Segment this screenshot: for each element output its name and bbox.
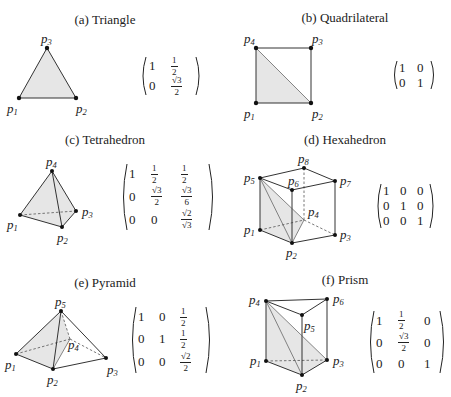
right-paren bbox=[205, 306, 213, 374]
label-p1: p1 bbox=[243, 106, 255, 122]
vertex-p1 bbox=[254, 101, 258, 105]
matrix-cell: 1 bbox=[129, 163, 136, 185]
title-prism: (f) Prism bbox=[322, 272, 369, 287]
label-p1: p1 bbox=[243, 222, 255, 238]
title-hexahedron: (d) Hexahedron bbox=[304, 132, 386, 147]
matrix-cell: 0 bbox=[417, 183, 424, 198]
matrix-cell: 1 bbox=[400, 198, 407, 213]
matrix-tetrahedron: 1 12 12 0 √32 √36 0 0 √2√3 bbox=[120, 163, 216, 231]
panel-prism: (f) Prism p1 p2 p3 p4 p5 p6 bbox=[248, 272, 368, 394]
vertex-p1 bbox=[14, 352, 18, 356]
matrix-cell: 12 bbox=[181, 163, 188, 185]
vertex-p2 bbox=[309, 101, 313, 105]
label-p4: p4 bbox=[243, 31, 256, 47]
panel-quadrilateral: (b) Quadrilateral p1 p2 p3 p4 bbox=[243, 10, 389, 122]
vertex-p6 bbox=[290, 188, 294, 192]
matrix-cell: 0 bbox=[399, 75, 406, 90]
matrix-cell: 1 bbox=[383, 183, 390, 198]
matrix-cell: 12 bbox=[398, 310, 405, 331]
matrix-cell: 1 bbox=[159, 328, 166, 350]
matrix-quadrilateral: 1 0 0 1 bbox=[392, 60, 436, 90]
vertex-p5 bbox=[258, 176, 262, 180]
matrix-cell: 12 bbox=[180, 306, 187, 328]
matrix-cell: √32 bbox=[151, 185, 162, 208]
vertex-p2 bbox=[74, 96, 78, 100]
label-p3: p3 bbox=[40, 31, 52, 47]
label-p2: p2 bbox=[295, 378, 308, 394]
matrix-cell: 1 bbox=[376, 310, 383, 331]
panel-triangle: (a) Triangle p1 p2 p3 bbox=[6, 12, 136, 117]
label-p2: p2 bbox=[46, 372, 59, 388]
matrix-cell: √2√3 bbox=[181, 208, 192, 231]
matrix-cell: 0 bbox=[383, 213, 390, 228]
vertex-p1 bbox=[264, 359, 268, 363]
matrix-cell: 0 bbox=[159, 306, 166, 328]
label-p4: p4 bbox=[45, 154, 58, 170]
vertex-p3 bbox=[74, 209, 78, 213]
matrix-cell: √22 bbox=[180, 350, 191, 374]
label-p3: p3 bbox=[332, 353, 344, 369]
vertex-p3 bbox=[104, 356, 108, 360]
matrix-cell: 12 bbox=[180, 328, 187, 350]
label-p2: p2 bbox=[56, 230, 69, 246]
title-tetrahedron: (c) Tetrahedron bbox=[65, 132, 146, 147]
matrix-cell: 0 bbox=[159, 350, 166, 374]
matrix-cell: 0 bbox=[138, 350, 145, 374]
matrix-cell: √32 bbox=[398, 331, 409, 354]
matrix-prism: 1 12 0 0 √32 0 0 0 1 bbox=[367, 310, 447, 374]
label-p3: p3 bbox=[106, 362, 118, 378]
label-p2: p2 bbox=[311, 106, 324, 122]
vertex-p3 bbox=[309, 46, 313, 50]
matrix-cell: √32 bbox=[171, 76, 182, 96]
left-paren bbox=[129, 306, 137, 374]
left-paren bbox=[367, 310, 375, 374]
vertex-p2 bbox=[51, 367, 55, 371]
vertex-p1 bbox=[258, 228, 262, 232]
label-p1: p1 bbox=[6, 217, 18, 233]
matrix-cell: 0 bbox=[424, 310, 431, 331]
title-pyramid: (e) Pyramid bbox=[74, 275, 136, 290]
vertex-p1 bbox=[18, 213, 22, 217]
matrix-cell: 12 bbox=[151, 163, 158, 185]
matrix-cell: 0 bbox=[417, 198, 424, 213]
right-paren bbox=[429, 183, 436, 229]
right-paren bbox=[208, 163, 216, 231]
matrix-cell: 1 bbox=[424, 354, 431, 374]
label-p2: p2 bbox=[285, 245, 298, 261]
matrix-cell: 0 bbox=[151, 208, 158, 231]
left-paren bbox=[140, 56, 147, 96]
label-p7: p7 bbox=[339, 173, 352, 189]
vertex-p3 bbox=[325, 358, 329, 362]
title-quadrilateral: (b) Quadrilateral bbox=[302, 10, 389, 25]
right-paren bbox=[195, 56, 202, 96]
label-p5: p5 bbox=[243, 170, 255, 186]
matrix-cell: 0 bbox=[400, 213, 407, 228]
label-p1: p1 bbox=[6, 101, 18, 117]
panel-hexahedron: (d) Hexahedron p1 p2 p3 p4 p5 p6 p7 p8 bbox=[243, 132, 386, 261]
label-p6: p6 bbox=[287, 173, 300, 189]
vertex-p2 bbox=[60, 225, 64, 229]
label-p3: p3 bbox=[81, 204, 93, 220]
vertex-p2 bbox=[300, 373, 304, 377]
matrix-cell: 1 bbox=[149, 56, 156, 76]
label-p1: p1 bbox=[4, 357, 16, 373]
label-p8: p8 bbox=[297, 151, 310, 167]
matrix-cell: 0 bbox=[129, 185, 136, 208]
vertex-p3 bbox=[333, 233, 337, 237]
label-p1: p1 bbox=[249, 353, 261, 369]
matrix-cell: 0 bbox=[398, 354, 405, 374]
matrix-cell: 0 bbox=[376, 331, 383, 354]
matrix-cell: 0 bbox=[138, 328, 145, 350]
matrix-cell: 0 bbox=[383, 198, 390, 213]
label-p2: p2 bbox=[75, 101, 88, 117]
matrix-cell: 1 bbox=[399, 60, 406, 75]
matrix-cell: 0 bbox=[424, 331, 431, 354]
label-p3: p3 bbox=[311, 31, 323, 47]
label-p3: p3 bbox=[339, 227, 351, 243]
matrix-cell: √36 bbox=[181, 185, 192, 208]
matrix-cell: 0 bbox=[417, 60, 424, 75]
label-p4: p4 bbox=[67, 337, 80, 353]
matrix-cell: 12 bbox=[171, 56, 178, 76]
left-paren bbox=[375, 183, 382, 229]
matrix-cell: 0 bbox=[129, 208, 136, 231]
